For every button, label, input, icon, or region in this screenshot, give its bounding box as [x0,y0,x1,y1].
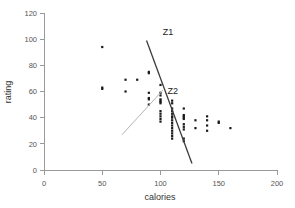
data-point [101,46,103,48]
annotation-label-layer: Z1Z2 [163,27,178,96]
data-point [171,132,173,134]
data-point [171,130,173,132]
data-point [171,100,173,102]
data-point [206,119,208,121]
y-tick-label: 100 [24,35,37,44]
data-point [159,113,161,115]
y-axis-ticks: 020406080100120 [24,9,44,175]
annotation-line-z2 [122,90,163,134]
data-point [206,115,208,117]
x-axis-title: calories [144,192,176,202]
data-point [218,122,220,124]
data-point [171,102,173,104]
y-tick-label: 120 [24,9,37,18]
y-axis-title: rating [3,81,13,104]
data-point [159,118,161,120]
data-point [148,98,150,100]
y-tick-label: 40 [29,113,37,122]
annotation-label-z1: Z1 [163,27,174,37]
data-point [183,118,185,120]
data-point [194,119,196,121]
annotation-line-z1 [147,40,192,163]
x-tick-label: 150 [212,179,225,188]
data-point [159,94,161,96]
data-point [159,120,161,122]
data-point [183,123,185,125]
scatter-chart: 020406080100120 050100150200 calories ra… [0,0,295,208]
data-point [171,117,173,119]
data-point [136,79,138,81]
data-point [206,124,208,126]
data-point [159,84,161,86]
y-tick-label: 20 [29,140,37,149]
data-point [171,135,173,137]
x-tick-label: 0 [42,179,46,188]
x-tick-label: 100 [154,179,167,188]
data-point [194,127,196,129]
data-point [183,128,185,130]
x-tick-label: 200 [271,179,284,188]
x-tick-label: 50 [98,179,106,188]
data-point [124,79,126,81]
data-point [159,102,161,104]
data-point [101,88,103,90]
data-point [148,92,150,94]
x-axis-ticks: 050100150200 [42,170,283,188]
data-point [159,115,161,117]
data-point [183,126,185,128]
data-point [171,122,173,124]
data-point [229,127,231,129]
data-point [171,127,173,129]
y-tick-label: 0 [33,166,37,175]
annotation-line-layer [122,40,192,163]
data-point [206,130,208,132]
data-point [148,72,150,74]
y-tick-label: 80 [29,61,37,70]
y-tick-label: 60 [29,87,37,96]
data-point [159,110,161,112]
data-point [171,138,173,140]
annotation-label-z2: Z2 [167,86,178,96]
data-point [171,119,173,121]
data-point [171,124,173,126]
plot-frame [44,13,277,170]
data-point [124,90,126,92]
chart-canvas: 020406080100120 050100150200 calories ra… [0,0,295,208]
data-point [183,107,185,109]
